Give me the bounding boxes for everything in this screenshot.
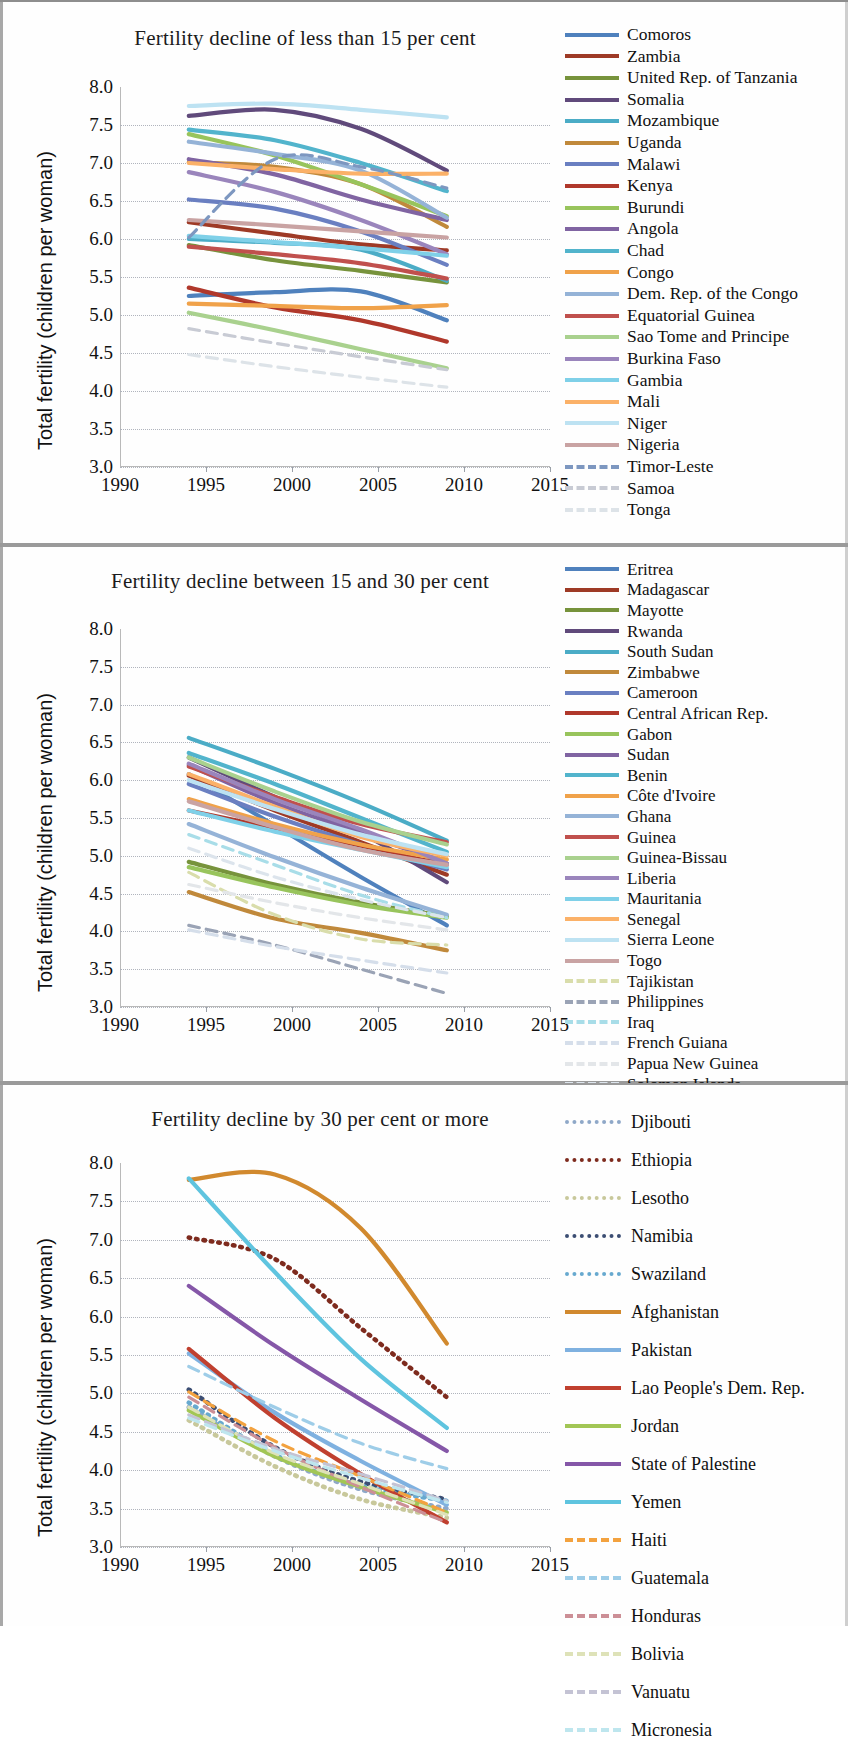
legend-item[interactable]: Gabon [565,724,768,745]
legend-label: French Guiana [627,1034,728,1051]
legend-item[interactable]: Bolivia [565,1635,805,1673]
x-axis-tick-label: 2015 [531,474,569,496]
legend-item[interactable]: Sierra Leone [565,930,768,951]
legend-item[interactable]: Yemen [565,1483,805,1521]
gridline [120,467,550,468]
legend-item[interactable]: Côte d'Ivoire [565,786,768,807]
legend-item[interactable]: Papua New Guinea [565,1053,768,1074]
legend-label: Swaziland [631,1265,706,1283]
legend-swatch-line [565,54,619,58]
x-axis-tick-label: 1995 [187,474,225,496]
legend-item[interactable]: Tonga [565,499,798,521]
legend-item[interactable]: Namibia [565,1217,805,1255]
legend-item[interactable]: Guinea [565,827,768,848]
legend-item[interactable]: Kenya [565,175,798,197]
x-axis-tick-label: 1995 [187,1014,225,1036]
legend-item[interactable]: Angola [565,218,798,240]
legend-label: Djibouti [631,1113,691,1131]
legend-item[interactable]: Haiti [565,1521,805,1559]
legend-label: Papua New Guinea [627,1055,758,1072]
legend-item[interactable]: Gambia [565,370,798,392]
legend-swatch-line [565,1462,621,1466]
chart-panel-1: Fertility decline of less than 15 per ce… [0,0,848,545]
legend-item[interactable]: Eritrea [565,559,768,580]
legend-item[interactable]: Guinea-Bissau [565,847,768,868]
chart-series-layer [120,87,550,467]
legend-item[interactable]: Mozambique [565,110,798,132]
legend-swatch-line [565,1538,621,1542]
legend-item[interactable]: Lesotho [565,1179,805,1217]
legend-item[interactable]: Liberia [565,868,768,889]
legend-item[interactable]: Burundi [565,197,798,219]
legend-item[interactable]: Rwanda [565,621,768,642]
legend-swatch-line [565,1158,621,1162]
legend-item[interactable]: Iraq [565,1012,768,1033]
x-axis-tick-mark [206,1547,207,1552]
legend-item[interactable]: Niger [565,413,798,435]
legend-item[interactable]: Djibouti [565,1103,805,1141]
legend-item[interactable]: Jordan [565,1407,805,1445]
legend-item[interactable]: Zimbabwe [565,662,768,683]
legend-item[interactable]: Nigeria [565,434,798,456]
legend-item[interactable]: French Guiana [565,1033,768,1054]
legend-swatch-line [565,732,619,736]
legend-swatch-line [565,897,619,901]
legend-item[interactable]: Tajikistan [565,971,768,992]
legend-item[interactable]: Dem. Rep. of the Congo [565,283,798,305]
legend-item[interactable]: Mayotte [565,600,768,621]
series-line [189,925,447,993]
legend-item[interactable]: Burkina Faso [565,348,798,370]
legend-label: Central African Rep. [627,705,768,722]
y-axis-tick-label: 8.0 [89,618,113,640]
legend-item[interactable]: Sao Tome and Principe [565,326,798,348]
legend-item[interactable]: Samoa [565,477,798,499]
legend-label: Sudan [627,746,670,763]
legend-item[interactable]: Zambia [565,46,798,68]
legend-label: Burkina Faso [627,350,721,368]
legend-swatch-line [565,608,619,612]
legend-item[interactable]: Ghana [565,806,768,827]
x-axis-tick-mark [464,1007,465,1012]
y-axis-tick-label: 4.0 [89,1459,113,1481]
legend-item[interactable]: Togo [565,950,768,971]
legend-item[interactable]: South Sudan [565,641,768,662]
gridline [120,1547,550,1548]
legend-item[interactable]: Lao People's Dem. Rep. [565,1369,805,1407]
legend-item[interactable]: State of Palestine [565,1445,805,1483]
legend-item[interactable]: Micronesia [565,1711,805,1740]
legend-item[interactable]: Somalia [565,89,798,111]
legend-item[interactable]: Central African Rep. [565,703,768,724]
legend-item[interactable]: Uganda [565,132,798,154]
legend-item[interactable]: Honduras [565,1597,805,1635]
x-axis-tick-label: 1990 [101,1014,139,1036]
legend-item[interactable]: Madagascar [565,580,768,601]
legend-item[interactable]: Afghanistan [565,1293,805,1331]
legend-item[interactable]: Chad [565,240,798,262]
legend-item[interactable]: Mauritania [565,889,768,910]
legend-label: Guinea-Bissau [627,849,727,866]
legend-label: Afghanistan [631,1303,719,1321]
legend-item[interactable]: Vanuatu [565,1673,805,1711]
legend-item[interactable]: Equatorial Guinea [565,305,798,327]
legend-item[interactable]: Senegal [565,909,768,930]
legend-item[interactable]: Guatemala [565,1559,805,1597]
legend-item[interactable]: Cameroon [565,683,768,704]
legend-item[interactable]: Congo [565,262,798,284]
legend-swatch-line [565,629,619,633]
legend-item[interactable]: Timor-Leste [565,456,798,478]
legend-item[interactable]: Pakistan [565,1331,805,1369]
chart-1-plot-area: 8.07.57.06.56.05.55.04.54.03.53.01990199… [120,87,550,467]
legend-label: Angola [627,220,679,238]
legend-item[interactable]: Philippines [565,991,768,1012]
legend-item[interactable]: Ethiopia [565,1141,805,1179]
legend-item[interactable]: Malawi [565,154,798,176]
y-axis-tick-label: 4.5 [89,1421,113,1443]
legend-item[interactable]: Sudan [565,744,768,765]
legend-item[interactable]: Mali [565,391,798,413]
legend-swatch-line [565,400,619,404]
legend-label: Bolivia [631,1645,684,1663]
legend-item[interactable]: Swaziland [565,1255,805,1293]
legend-item[interactable]: Benin [565,765,768,786]
legend-item[interactable]: Comoros [565,24,798,46]
legend-item[interactable]: United Rep. of Tanzania [565,67,798,89]
